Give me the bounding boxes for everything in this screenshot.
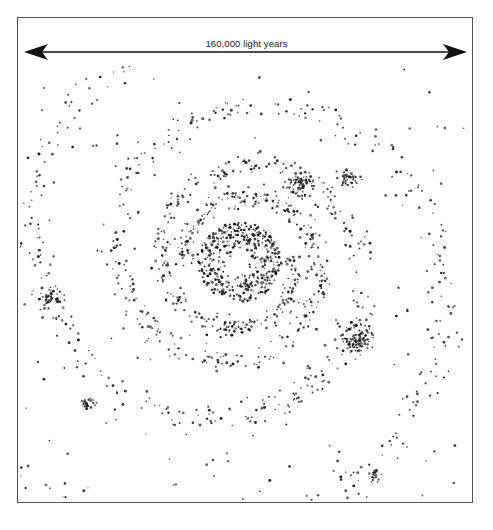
galaxy-diagram bbox=[0, 0, 493, 530]
galaxy-stars bbox=[20, 66, 465, 501]
scale-bar bbox=[24, 44, 467, 60]
